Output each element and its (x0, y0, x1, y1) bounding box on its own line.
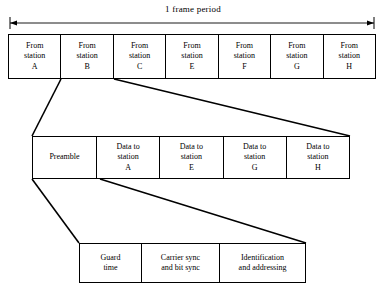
burst-preamble-cell: Preamble (33, 137, 97, 178)
preamble-carrier-sync-cell: Carrier sync and bit sync (142, 244, 220, 282)
frame-slot-h-line3: H (346, 62, 352, 73)
frame-slot-g-line3: G (294, 62, 300, 73)
burst-preamble-label: Preamble (49, 152, 79, 163)
frame-slot-b-line2: station (76, 51, 97, 62)
frame-slot-c-line2: station (129, 51, 150, 62)
frame-slot-c-line1: From (131, 41, 148, 52)
preamble-detail-row: Guard time Carrier sync and bit sync Ide… (79, 243, 306, 283)
frame-slot-f-line3: F (242, 62, 246, 73)
frame-slot-g-line2: station (286, 51, 307, 62)
frame-period-dimension-arrow (10, 17, 374, 29)
frame-slot-g: From station G (271, 35, 323, 78)
burst-expansion-lines (32, 79, 350, 136)
frame-slot-f-line2: station (234, 51, 255, 62)
burst-detail-row: Preamble Data to station A Data to stati… (32, 136, 350, 179)
burst-data-e-line3: E (189, 163, 194, 174)
burst-data-e: Data to station E (160, 137, 223, 178)
preamble-guard-time-line1: Guard (101, 253, 121, 264)
frame-slot-b: From station B (61, 35, 113, 78)
frame-slot-b-line3: B (84, 62, 89, 73)
burst-data-g-line1: Data to (243, 142, 266, 153)
frame-slot-f-line1: From (236, 41, 253, 52)
preamble-identification-line1: Identification (241, 253, 284, 264)
frame-slot-a-line3: A (32, 62, 38, 73)
burst-data-e-line2: station (181, 152, 202, 163)
burst-data-g: Data to station G (224, 137, 287, 178)
preamble-carrier-sync-line2: and bit sync (161, 263, 200, 274)
burst-data-h-line1: Data to (306, 142, 329, 153)
tdma-frame-diagram: 1 frame period From station A From s (0, 0, 386, 291)
frame-slot-h-line1: From (341, 41, 358, 52)
frame-slot-row: From station A From station B From stati… (8, 34, 376, 79)
preamble-carrier-sync-line1: Carrier sync (161, 253, 200, 264)
frame-slot-e-line1: From (183, 41, 200, 52)
preamble-identification-line2: and addressing (239, 263, 287, 274)
frame-slot-b-line1: From (78, 41, 95, 52)
burst-data-e-line1: Data to (180, 142, 203, 153)
frame-slot-a-line2: station (24, 51, 45, 62)
burst-data-g-line3: G (252, 163, 258, 174)
frame-slot-h: From station H (324, 35, 375, 78)
frame-period-label: 1 frame period (0, 4, 386, 15)
frame-slot-f: From station F (219, 35, 271, 78)
burst-data-a-line2: station (117, 152, 138, 163)
frame-slot-e: From station E (166, 35, 218, 78)
frame-slot-e-line3: E (190, 62, 195, 73)
burst-data-a-line1: Data to (116, 142, 139, 153)
burst-data-g-line2: station (244, 152, 265, 163)
preamble-guard-time-cell: Guard time (80, 244, 142, 282)
frame-slot-a-line1: From (26, 41, 43, 52)
frame-slot-c: From station C (114, 35, 166, 78)
preamble-identification-cell: Identification and addressing (220, 244, 305, 282)
burst-data-h-line3: H (315, 163, 321, 174)
frame-slot-g-line1: From (288, 41, 305, 52)
frame-slot-c-line3: C (137, 62, 142, 73)
frame-slot-e-line2: station (181, 51, 202, 62)
burst-data-a-line3: A (125, 163, 131, 174)
preamble-expansion-lines (32, 179, 306, 243)
preamble-guard-time-line2: time (103, 263, 117, 274)
burst-data-h-line2: station (307, 152, 328, 163)
frame-slot-a: From station A (9, 35, 61, 78)
frame-slot-h-line2: station (339, 51, 360, 62)
burst-data-a: Data to station A (97, 137, 160, 178)
burst-data-h: Data to station H (287, 137, 349, 178)
